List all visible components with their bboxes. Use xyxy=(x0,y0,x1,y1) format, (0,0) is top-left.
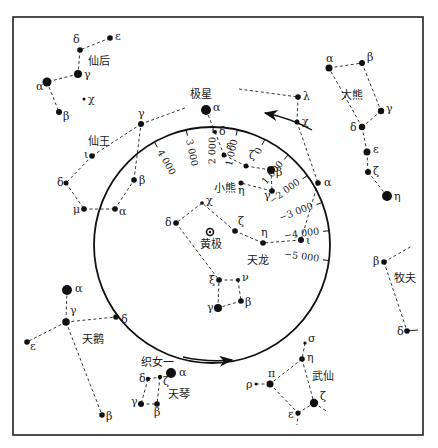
constellation-line xyxy=(384,246,412,262)
star: γ xyxy=(138,107,145,127)
star-label: ε xyxy=(115,30,121,43)
constellation-name: 仙后 xyxy=(88,55,110,68)
star-dot-icon xyxy=(238,298,244,304)
star-dot-icon xyxy=(24,339,30,345)
star-dot-icon xyxy=(381,259,387,265)
star-label: ι xyxy=(84,148,88,161)
star-dot-icon xyxy=(295,120,300,125)
scale-tick xyxy=(316,202,322,204)
star-label: χ xyxy=(302,115,309,128)
star-dot-icon xyxy=(255,383,258,386)
constellation-line xyxy=(80,38,110,50)
star: χ xyxy=(295,115,310,128)
star: γ xyxy=(74,68,91,81)
star-label: δ xyxy=(397,325,404,338)
star-dot-icon xyxy=(62,318,70,326)
star-dot-icon xyxy=(359,60,365,66)
constellation-labels: 仙后仙王小熊天龙大熊天鹅天琴武仙牧夫 xyxy=(82,55,416,401)
star-dot-icon xyxy=(56,109,62,115)
scale-tick xyxy=(302,175,307,179)
constellation-name: 牧夫 xyxy=(394,271,416,285)
star: γ xyxy=(62,304,77,326)
star: ε xyxy=(107,30,121,43)
star-label: η xyxy=(238,184,245,197)
star-dot-icon xyxy=(244,164,249,169)
constellation-line xyxy=(297,122,318,183)
star-label: ε xyxy=(226,139,232,152)
star-dot-icon xyxy=(138,121,144,127)
star: ζ xyxy=(244,149,256,169)
star: ε xyxy=(24,339,36,353)
star-dot-icon xyxy=(315,180,321,186)
star-dot-icon xyxy=(201,105,211,115)
constellation-line xyxy=(263,240,301,243)
star-dot-icon xyxy=(382,191,392,201)
star-label: γ xyxy=(264,189,271,202)
star-dot-icon xyxy=(364,149,371,156)
constellation-line xyxy=(27,322,66,342)
star-dot-icon xyxy=(236,278,240,282)
star-label: γ xyxy=(386,102,393,115)
star-dot-icon xyxy=(267,381,274,388)
star-dot-icon xyxy=(267,166,275,174)
star-dot-icon xyxy=(158,375,162,379)
star-label: β xyxy=(245,296,251,309)
star: α xyxy=(36,78,52,94)
star-label: η xyxy=(394,190,401,203)
constellation-name: 武仙 xyxy=(312,370,334,383)
constellation-line xyxy=(202,203,235,231)
star: λ xyxy=(295,90,310,103)
star-label: ε xyxy=(288,408,294,421)
star-label: μ xyxy=(73,203,80,216)
star-label: δ xyxy=(73,33,80,46)
star-dot-icon xyxy=(260,240,266,246)
star: γ xyxy=(207,301,222,314)
star-label: β xyxy=(106,410,112,423)
star: β xyxy=(99,410,112,423)
star-label: σ xyxy=(308,332,316,345)
scale-tick-label: 3 000 xyxy=(184,138,201,167)
star-dot-icon xyxy=(99,412,105,418)
star-dot-icon xyxy=(378,108,384,114)
star-dot-icon xyxy=(213,130,217,134)
star-dot-icon xyxy=(365,169,371,175)
constellation-line xyxy=(157,377,160,404)
star-label: π xyxy=(268,367,275,380)
star-dot-icon xyxy=(232,228,238,234)
star-label: ζ xyxy=(249,149,255,162)
scale-tick-label: 2 000 xyxy=(206,137,217,164)
star: ζ xyxy=(365,165,379,178)
star-label: δ xyxy=(139,372,146,385)
constellation-line xyxy=(176,203,202,223)
constellation-name: 小熊 xyxy=(214,181,236,195)
scale-tick xyxy=(284,155,288,160)
scale-tick xyxy=(323,231,329,232)
star-dot-icon xyxy=(112,206,118,212)
star-dot-icon xyxy=(74,70,82,78)
star-dot-icon xyxy=(298,237,304,243)
star: α xyxy=(326,52,335,72)
scale-tick xyxy=(154,142,157,147)
ecliptic-pole: 黄极 xyxy=(200,229,222,252)
star-label: β xyxy=(139,174,145,187)
constellation-line xyxy=(47,82,59,112)
scale-tick-label: −5 000 xyxy=(284,248,320,264)
constellation-name: 天龙 xyxy=(247,254,269,267)
star-label: β xyxy=(367,51,373,64)
star-label: η xyxy=(261,226,268,239)
scale-tick-label: −3 000 xyxy=(278,200,315,223)
star-label: δ xyxy=(350,121,357,134)
star-label: η xyxy=(307,351,314,364)
star: β xyxy=(131,174,145,187)
star-dot-icon xyxy=(83,98,86,101)
star-dot-icon xyxy=(359,124,365,130)
constellation-name: 天鹅 xyxy=(82,332,104,346)
constellation-line xyxy=(297,97,298,122)
constellation-line xyxy=(362,63,381,111)
star-label: δ xyxy=(57,176,64,189)
ecliptic-pole-label: 黄极 xyxy=(200,237,222,251)
star-dot-icon xyxy=(299,356,305,362)
star: α极星 xyxy=(190,87,221,115)
star: ζ xyxy=(158,375,169,388)
constellation-line xyxy=(47,74,78,82)
